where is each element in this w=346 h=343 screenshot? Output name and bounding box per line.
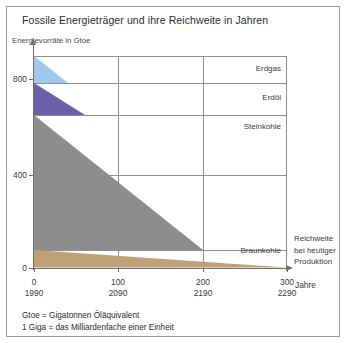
series-wedge-erdgas (34, 56, 68, 83)
x-tick-mark-0 (34, 268, 35, 272)
series-label-steinkohle: Steinkohle (244, 122, 281, 131)
chart-figure: Fossile Energieträger und ihre Reichweit… (0, 0, 346, 343)
series-wedge-erdoel (34, 83, 85, 115)
x-tick-mark-300 (287, 268, 288, 272)
series-label-erdgas: Erdgas (256, 64, 281, 73)
y-axis-arrow (30, 38, 36, 45)
y-tick-mark-800 (29, 79, 34, 80)
chart-title: Fossile Energieträger und ihre Reichweit… (22, 14, 268, 26)
x-tick-sublabel-2190: 2190 (183, 288, 223, 298)
y-tick-mark-400 (29, 175, 34, 176)
x-tick-mark-100 (118, 268, 119, 272)
annotation-line-3: Produktion (294, 256, 332, 268)
x-tick-label-0: 0 (14, 277, 54, 287)
y-axis-line (33, 44, 34, 270)
x-axis-line (33, 268, 288, 269)
x-tick-mark-200 (203, 268, 204, 272)
x-tick-sublabel-1990: 1990 (14, 288, 54, 298)
x-tick-label-200: 200 (183, 277, 223, 287)
annotation-line-1: Reichweite (294, 233, 333, 245)
y-tick-label-800: 800 (5, 74, 27, 84)
annotation-line-2: bei heutiger (294, 245, 336, 257)
stacked-area-series (34, 56, 287, 268)
x-tick-label-100: 100 (98, 277, 138, 287)
plot-area: Erdgas Erdöl Steinkohle Braunkohle (34, 56, 287, 268)
y-axis-caption: Energievorräte in Gtoe (12, 36, 90, 45)
y-tick-label-0: 0 (5, 263, 27, 273)
series-label-erdoel: Erdöl (262, 93, 281, 102)
x-axis-unit-label: Jahre (295, 280, 316, 290)
footnote-line-1: Gtoe = Gigatonnen Öläquivalent (22, 310, 139, 322)
y-tick-label-400: 400 (5, 170, 27, 180)
footnote-line-2: 1 Giga = das Milliardenfache einer Einhe… (22, 322, 174, 334)
series-label-braunkohle: Braunkohle (241, 246, 281, 255)
x-tick-sublabel-2090: 2090 (98, 288, 138, 298)
series-wedge-steinkohle (34, 115, 203, 250)
